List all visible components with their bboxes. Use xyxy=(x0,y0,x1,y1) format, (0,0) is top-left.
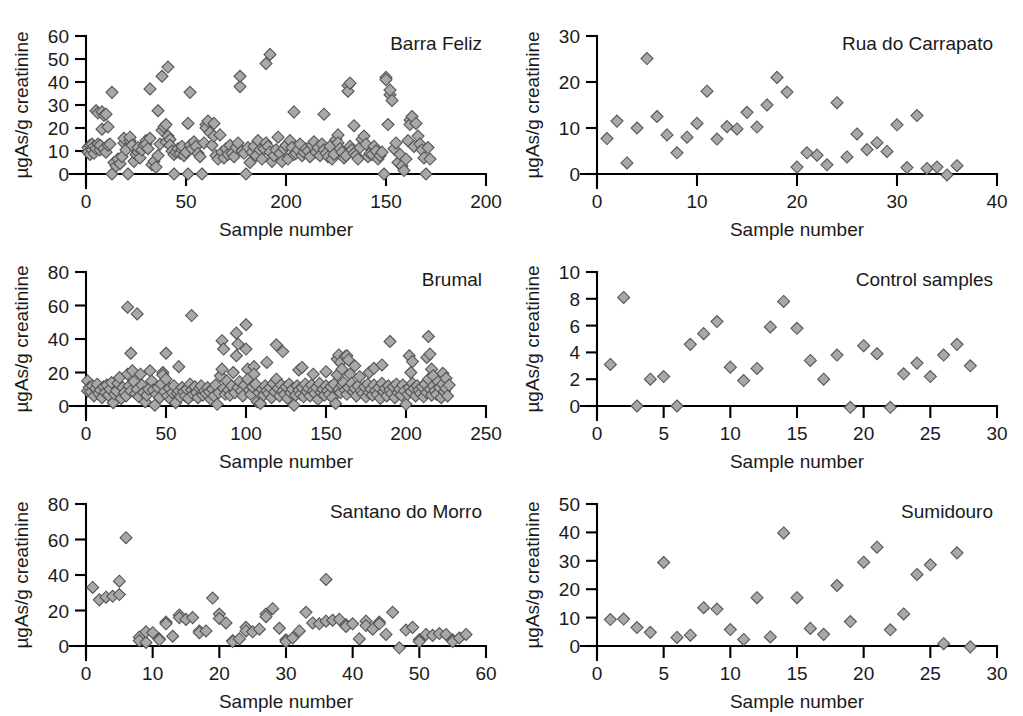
data-point xyxy=(738,375,750,387)
data-point xyxy=(393,642,405,654)
data-point xyxy=(156,70,168,82)
x-axis-title: Sample number xyxy=(730,219,865,240)
data-point xyxy=(604,614,616,626)
data-point xyxy=(844,401,856,413)
x-tick-label: 15 xyxy=(786,423,807,444)
panel-brumal: 020406080050100150200250Sample numberµgA… xyxy=(0,244,512,476)
data-point xyxy=(382,119,394,131)
data-point xyxy=(871,348,883,360)
x-axis-ticks: 051015202530 xyxy=(592,646,1008,684)
data-point xyxy=(698,328,710,340)
data-point xyxy=(804,354,816,366)
x-axis-ticks: 050100150200250 xyxy=(81,406,502,444)
y-tick-label: 0 xyxy=(58,636,69,657)
data-point xyxy=(162,61,174,73)
data-point xyxy=(671,631,683,643)
data-points xyxy=(604,291,976,413)
x-axis-ticks: 0102030405060 xyxy=(81,646,497,684)
data-point xyxy=(724,624,736,636)
data-point xyxy=(106,86,118,98)
x-tick-label: 20 xyxy=(209,663,230,684)
data-point xyxy=(186,310,198,322)
data-point xyxy=(751,121,763,133)
data-point xyxy=(641,53,653,65)
axes xyxy=(581,504,997,660)
data-point xyxy=(938,638,950,650)
y-tick-label: 0 xyxy=(569,396,580,417)
y-axis-title: µgAs/g creatinine xyxy=(522,501,543,648)
data-point xyxy=(921,162,933,174)
y-tick-label: 4 xyxy=(569,342,580,363)
y-tick-label: 20 xyxy=(559,579,580,600)
data-point xyxy=(113,575,125,587)
data-point xyxy=(380,628,392,640)
data-point xyxy=(898,608,910,620)
x-tick-label: 0 xyxy=(592,663,603,684)
x-tick-label: 200 xyxy=(270,191,302,212)
x-axis-title: Sample number xyxy=(730,451,865,472)
data-point xyxy=(858,340,870,352)
y-tick-label: 10 xyxy=(559,262,580,283)
y-tick-label: 40 xyxy=(559,522,580,543)
chart-control-samples: 0246810051015202530Sample numberµgAs/g c… xyxy=(511,244,1023,476)
y-axis-ticks: 020406080 xyxy=(48,494,86,657)
y-tick-label: 8 xyxy=(569,289,580,310)
data-point xyxy=(144,83,156,95)
x-axis-title: Sample number xyxy=(730,691,865,712)
y-tick-label: 30 xyxy=(559,551,580,572)
data-point xyxy=(234,70,246,82)
x-tick-label: 150 xyxy=(370,191,402,212)
data-point xyxy=(801,147,813,159)
data-point xyxy=(831,97,843,109)
data-point xyxy=(230,350,242,362)
y-tick-label: 30 xyxy=(559,26,580,47)
chart-sumidouro: 01020304050051015202530Sample numberµgAs… xyxy=(511,476,1023,716)
y-tick-label: 20 xyxy=(48,601,69,622)
data-point xyxy=(405,367,417,379)
y-axis-title: µgAs/g creatinine xyxy=(11,265,32,412)
data-point xyxy=(196,168,208,180)
data-point xyxy=(891,119,903,131)
data-point xyxy=(831,580,843,592)
data-point xyxy=(644,373,656,385)
data-point xyxy=(941,169,953,181)
panel-title: Santano do Morro xyxy=(330,501,482,522)
x-tick-label: 15 xyxy=(786,663,807,684)
x-tick-label: 0 xyxy=(592,191,603,212)
data-point xyxy=(791,322,803,334)
data-point xyxy=(681,131,693,143)
y-axis-title: µgAs/g creatinine xyxy=(11,501,32,648)
x-axis-title: Sample number xyxy=(219,219,354,240)
data-point xyxy=(751,362,763,374)
x-tick-label: 30 xyxy=(986,663,1007,684)
y-tick-label: 60 xyxy=(48,296,69,317)
y-axis-title: µgAs/g creatinine xyxy=(522,31,543,178)
data-point xyxy=(938,349,950,361)
y-tick-label: 0 xyxy=(58,164,69,185)
data-point xyxy=(951,338,963,350)
data-point xyxy=(871,137,883,149)
data-point xyxy=(831,349,843,361)
y-tick-label: 0 xyxy=(569,164,580,185)
data-point xyxy=(167,630,179,642)
data-point xyxy=(387,606,399,618)
data-point xyxy=(724,361,736,373)
data-point xyxy=(240,168,252,180)
data-point xyxy=(901,162,913,174)
x-tick-label: 5 xyxy=(658,663,669,684)
data-points xyxy=(87,532,472,654)
y-tick-label: 60 xyxy=(48,530,69,551)
data-point xyxy=(273,622,285,634)
data-point xyxy=(884,624,896,636)
x-tick-label: 10 xyxy=(720,423,741,444)
data-point xyxy=(173,361,185,373)
data-point xyxy=(621,157,633,169)
data-point xyxy=(884,401,896,413)
data-point xyxy=(207,592,219,604)
panel-barra-feliz: 0102030405060050200150200Sample numberµg… xyxy=(0,8,512,244)
data-point xyxy=(741,106,753,118)
x-tick-label: 0 xyxy=(592,423,603,444)
data-point xyxy=(871,541,883,553)
panel-control-samples: 0246810051015202530Sample numberµgAs/g c… xyxy=(511,244,1023,476)
x-axis-title: Sample number xyxy=(219,451,354,472)
